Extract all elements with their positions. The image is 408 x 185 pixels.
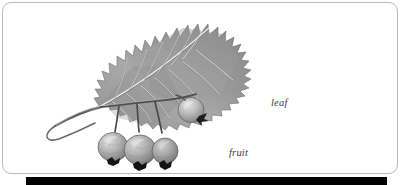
fruit-left	[98, 133, 128, 167]
label-leaf: leaf	[271, 98, 288, 109]
fruit-middle	[124, 135, 156, 171]
bottom-black-bar	[26, 177, 387, 185]
label-fruit: fruit	[229, 148, 248, 159]
fruit-right	[152, 138, 178, 170]
screenshot-stage: leaf fruit	[0, 0, 408, 185]
figure-card: leaf fruit	[2, 2, 398, 174]
